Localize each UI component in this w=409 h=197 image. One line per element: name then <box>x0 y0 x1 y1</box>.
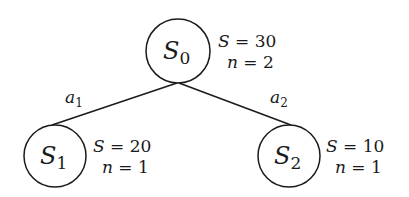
node-stat-n: n = 1 <box>335 157 382 177</box>
node-stat-n: n = 1 <box>102 157 149 177</box>
node-stat-s: S = 20 <box>93 136 151 156</box>
edge-label-a2: a2 <box>270 87 288 110</box>
node-stat-n: n = 2 <box>227 52 274 72</box>
node-s2: S2 S = 10 n = 1 <box>258 125 384 187</box>
node-stat-s: S = 30 <box>218 31 276 51</box>
node-s0: S0 S = 30 n = 2 <box>146 19 276 83</box>
node-s1: S1 S = 20 n = 1 <box>24 125 151 187</box>
node-stat-s: S = 10 <box>326 136 384 156</box>
tree-diagram: a1 a2 S0 S = 30 n = 2 S1 S = 20 n = 1 <box>0 0 409 197</box>
edge-label-a1: a1 <box>65 87 83 110</box>
